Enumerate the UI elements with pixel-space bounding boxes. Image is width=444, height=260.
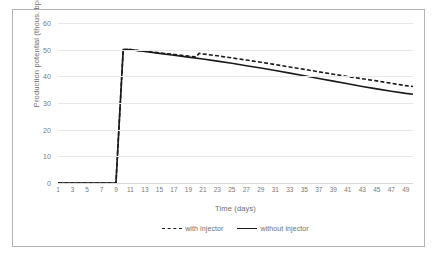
series-line-without-injector [58, 50, 413, 183]
x-axis-tick-label: 7 [100, 186, 104, 193]
x-axis-tick-label: 15 [156, 186, 163, 193]
x-axis-tick-label: 41 [344, 186, 351, 193]
x-axis-tick-label: 19 [185, 186, 192, 193]
legend-swatch-icon [237, 228, 257, 229]
gridline [58, 76, 413, 77]
x-axis-tick-label: 45 [373, 186, 380, 193]
legend-entry[interactable]: without injector [237, 225, 308, 232]
x-axis-tick-label: 21 [199, 186, 206, 193]
x-axis-tick-label: 47 [388, 186, 395, 193]
x-axis-tick-label: 33 [286, 186, 293, 193]
y-axis-tick-label: 0 [47, 180, 51, 187]
y-axis-tick-label: 10 [43, 153, 51, 160]
x-axis-tick-label: 27 [243, 186, 250, 193]
gridline [58, 183, 413, 184]
gridline [58, 23, 413, 24]
x-axis-title: Time (days) [58, 204, 413, 213]
legend-entry[interactable]: with injector [162, 225, 223, 232]
y-axis-tick-label: 30 [43, 100, 51, 107]
legend-label: without injector [260, 225, 308, 232]
x-axis-tick-label: 37 [315, 186, 322, 193]
chart-legend: with injectorwithout injector [58, 225, 413, 232]
x-axis-tick-label: 13 [141, 186, 148, 193]
x-axis-tick-label: 39 [330, 186, 337, 193]
gridline [58, 50, 413, 51]
gridline [58, 103, 413, 104]
gridline [58, 156, 413, 157]
chart-frame: Production potential (thous. bpd) 010203… [12, 9, 425, 247]
x-axis-tick-label: 11 [127, 186, 134, 193]
y-axis-tick-label: 50 [43, 46, 51, 53]
x-axis-tick-labels: 1357911131517192123252729313335373941434… [58, 186, 413, 198]
legend-swatch-icon [162, 228, 182, 229]
x-axis-tick-label: 9 [114, 186, 118, 193]
x-axis-tick-label: 31 [272, 186, 279, 193]
x-axis-tick-label: 3 [71, 186, 75, 193]
x-axis-tick-label: 17 [170, 186, 177, 193]
y-axis-tick-label: 20 [43, 126, 51, 133]
y-axis-tick-label: 60 [43, 20, 51, 27]
x-axis-tick-label: 35 [301, 186, 308, 193]
legend-label: with injector [185, 225, 223, 232]
x-axis-tick-label: 49 [402, 186, 409, 193]
x-axis-tick-label: 5 [85, 186, 89, 193]
series-line-with-injector [58, 50, 413, 183]
x-axis-tick-label: 43 [359, 186, 366, 193]
gridline [58, 130, 413, 131]
x-axis-tick-label: 1 [56, 186, 60, 193]
plot-area [58, 23, 413, 183]
x-axis-tick-label: 25 [228, 186, 235, 193]
y-axis-tick-label: 40 [43, 73, 51, 80]
x-axis-tick-label: 29 [257, 186, 264, 193]
y-axis-tick-labels: 0102030405060 [13, 23, 56, 183]
x-axis-tick-label: 23 [214, 186, 221, 193]
